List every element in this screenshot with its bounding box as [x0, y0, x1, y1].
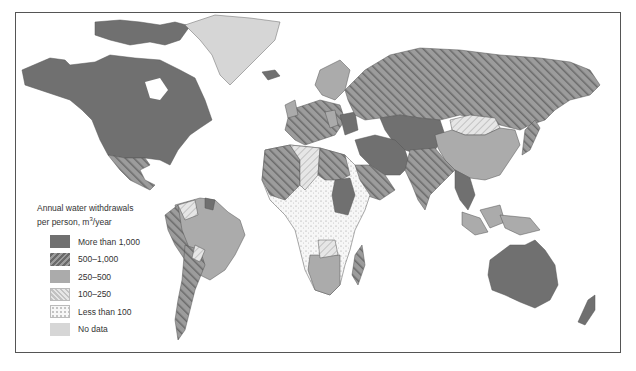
- legend-label: 500–1,000: [78, 254, 118, 264]
- new-zealand: [578, 295, 595, 325]
- australia: [488, 240, 558, 308]
- legend-label: 100–250: [78, 289, 111, 299]
- legend-title-line2: per person, m3/year: [37, 214, 177, 228]
- legend-title-line1: Annual water withdrawals: [37, 203, 177, 214]
- legend-label: More than 1,000: [78, 237, 140, 247]
- legend-title: Annual water withdrawals per person, m3/…: [37, 203, 177, 228]
- africa: [262, 145, 370, 295]
- legend-item-more-than-1000: More than 1,000: [37, 233, 177, 251]
- europe: [285, 60, 358, 145]
- legend-item-500-1000: 500–1,000: [37, 250, 177, 268]
- iceland: [262, 70, 280, 80]
- north-america: [22, 20, 212, 165]
- indonesia: [462, 205, 540, 235]
- swatch-hatch-dark: [50, 253, 70, 266]
- legend-item-250-500: 250–500: [37, 268, 177, 286]
- figure-caption: [15, 361, 315, 371]
- legend-item-no-data: No data: [37, 320, 177, 338]
- swatch-solid-medium: [50, 270, 70, 283]
- legend-label: No data: [78, 324, 108, 334]
- swatch-solid-dark: [50, 235, 70, 248]
- swatch-dotted: [50, 305, 70, 318]
- swatch-solid-light: [50, 323, 70, 336]
- mexico: [108, 155, 155, 190]
- legend-label: 250–500: [78, 272, 111, 282]
- legend-item-100-250: 100–250: [37, 285, 177, 303]
- south-america: [165, 198, 245, 340]
- legend-label: Less than 100: [78, 307, 131, 317]
- legend-item-less-than-100: Less than 100: [37, 303, 177, 321]
- swatch-hatch-light: [50, 288, 70, 301]
- map-legend: Annual water withdrawals per person, m3/…: [37, 203, 177, 338]
